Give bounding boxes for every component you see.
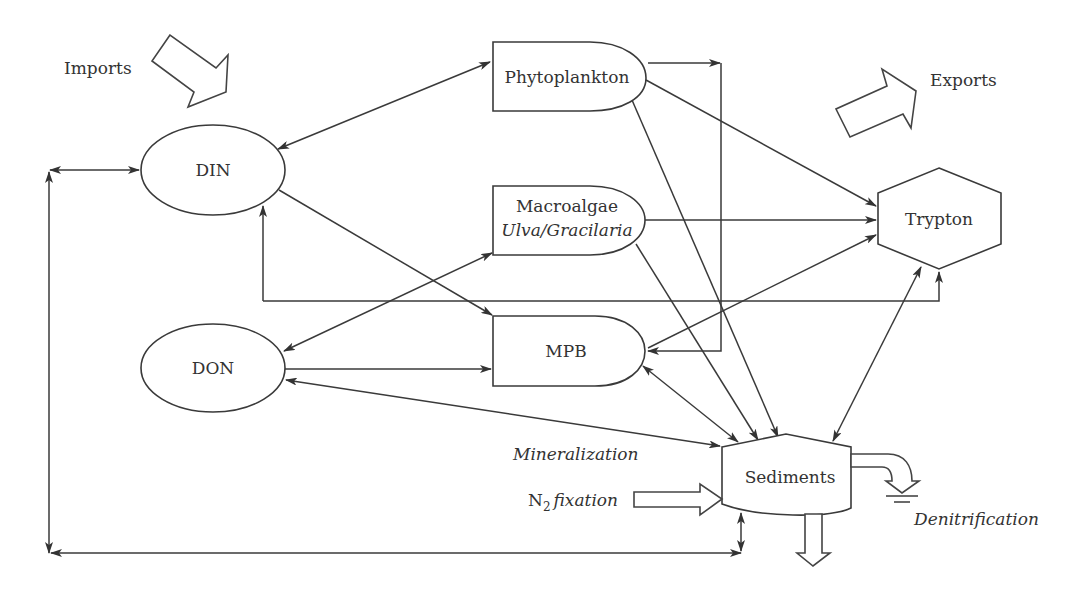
n2-fixation-label: N2fixation [528, 490, 618, 514]
mineralization-label: Mineralization [512, 444, 639, 464]
sediments-label: Sediments [745, 467, 836, 487]
n2-prefix: N [528, 490, 543, 510]
node-sediments[interactable]: Sediments [722, 434, 851, 515]
denitrification-label: Denitrification [913, 509, 1039, 529]
exports-arrow-icon [836, 69, 916, 137]
n2-subscript: 2 [543, 500, 551, 514]
edge-mpb-trypton [648, 235, 876, 348]
din-label: DIN [195, 160, 230, 180]
edge-trypton-sediments [833, 267, 921, 441]
edge-din-mpb [279, 190, 492, 315]
node-don[interactable]: DON [141, 324, 285, 412]
denitrification-arrow-icon [851, 454, 919, 493]
don-label: DON [192, 358, 235, 378]
burial-arrow-icon [797, 514, 830, 566]
edge-mpb-sediments [643, 366, 738, 442]
edge-din-trypton-feedback [263, 272, 939, 301]
node-macroalgae[interactable]: Macroalgae Ulva/Gracilaria [493, 186, 645, 255]
edge-don-macroalgae [284, 253, 492, 351]
edge-bracket-mpb [648, 63, 721, 351]
n2-fixation-text: fixation [552, 490, 619, 510]
imports-arrow-icon [152, 35, 228, 107]
n2-fixation-arrow-icon [634, 484, 722, 515]
exports-label: Exports [930, 70, 997, 90]
macroalgae-label: Macroalgae [516, 196, 618, 216]
edge-phytoplankton-trypton [646, 80, 876, 206]
trypton-label: Trypton [905, 209, 973, 229]
node-trypton[interactable]: Trypton [878, 168, 1001, 269]
node-phytoplankton[interactable]: Phytoplankton [493, 42, 646, 111]
edge-macroalgae-sediments [636, 244, 758, 440]
edge-din-phytoplankton [278, 62, 490, 149]
node-din[interactable]: DIN [141, 125, 285, 215]
node-mpb[interactable]: MPB [493, 316, 645, 386]
phytoplankton-label: Phytoplankton [505, 67, 630, 87]
imports-label: Imports [64, 58, 132, 78]
mpb-label: MPB [545, 341, 586, 361]
macroalgae-sublabel: Ulva/Gracilaria [501, 220, 632, 240]
nitrogen-cycle-diagram: DIN DON Phytoplankton Macroalgae Ulva/Gr… [0, 0, 1084, 590]
edge-phytoplankton-sediments [632, 100, 778, 437]
edge-don-sediments [286, 380, 720, 446]
